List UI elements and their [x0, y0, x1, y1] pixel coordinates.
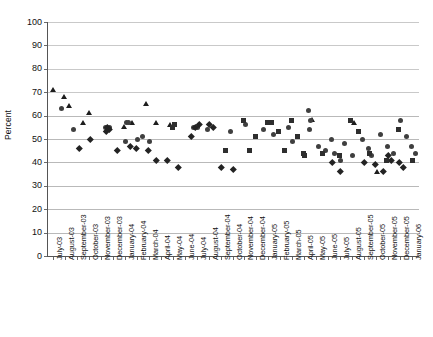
data-point-diamond — [385, 152, 391, 158]
x-tick-label: October-04 — [236, 224, 243, 260]
x-tick-mark — [221, 257, 222, 260]
data-point-circle — [391, 151, 396, 156]
data-point-square — [223, 148, 228, 153]
x-tick-mark — [280, 257, 281, 260]
x-tick-label: September-04 — [224, 214, 231, 260]
x-tick-label: June-05 — [331, 234, 338, 260]
x-tick-mark — [137, 257, 138, 260]
y-tick-label: 80 — [18, 64, 42, 73]
data-point-triangle — [61, 94, 67, 99]
x-tick-label: January-04 — [128, 224, 135, 260]
data-point-circle — [191, 125, 196, 130]
x-tick-label: July-05 — [343, 237, 350, 260]
gridline — [47, 92, 419, 93]
data-point-circle — [413, 151, 418, 156]
data-point-circle — [71, 127, 76, 132]
gridline — [47, 209, 419, 210]
data-point-circle — [323, 148, 328, 153]
x-tick-label: August-03 — [68, 227, 75, 260]
x-tick-mark — [185, 257, 186, 260]
x-tick-label: February-05 — [283, 221, 290, 260]
x-tick-mark — [233, 257, 234, 260]
data-point-circle — [205, 127, 210, 132]
gridline — [47, 22, 419, 23]
data-point-diamond — [106, 126, 112, 132]
data-point-square — [241, 118, 246, 123]
x-tick-mark — [412, 257, 413, 260]
x-tick-mark — [89, 257, 90, 260]
x-tick-label: August-05 — [355, 227, 362, 260]
data-point-circle — [385, 144, 390, 149]
data-point-diamond — [337, 168, 343, 174]
gridline — [47, 162, 419, 163]
data-point-square — [170, 125, 175, 130]
data-point-diamond — [103, 129, 109, 135]
data-point-diamond — [193, 124, 199, 130]
x-tick-label: December-05 — [403, 216, 410, 260]
x-tick-label: January-05 — [271, 224, 278, 260]
data-point-circle — [306, 108, 311, 113]
data-point-circle — [261, 127, 266, 132]
data-point-diamond — [114, 147, 120, 153]
y-tick-label: 50 — [18, 135, 42, 144]
x-tick-mark — [113, 257, 114, 260]
data-point-circle — [307, 127, 312, 132]
x-tick-label: May-05 — [319, 236, 326, 260]
x-tick-mark — [328, 257, 329, 260]
clipped-title-remnant — [112, 0, 362, 4]
data-point-square — [367, 151, 372, 156]
x-tick-label: March-05 — [295, 230, 302, 260]
data-point-diamond — [218, 164, 224, 170]
data-point-circle — [409, 144, 414, 149]
gridline — [47, 69, 419, 70]
x-tick-label: April-04 — [164, 235, 171, 260]
data-point-circle — [271, 132, 276, 137]
data-point-triangle — [129, 120, 135, 125]
x-tick-mark — [53, 257, 54, 260]
data-point-circle — [103, 125, 108, 130]
x-tick-mark — [388, 257, 389, 260]
data-point-diamond — [196, 122, 202, 128]
x-tick-label: November-03 — [104, 216, 111, 260]
x-tick-label: April-05 — [307, 235, 314, 260]
data-point-triangle — [86, 110, 92, 115]
x-tick-mark — [125, 257, 126, 260]
x-tick-mark — [340, 257, 341, 260]
x-tick-label: March-04 — [152, 230, 159, 260]
x-tick-label: October-03 — [92, 224, 99, 260]
x-tick-mark — [364, 257, 365, 260]
x-tick-mark — [376, 257, 377, 260]
x-tick-label: November-05 — [391, 216, 398, 260]
data-point-circle — [369, 153, 374, 158]
data-point-triangle — [167, 122, 173, 127]
scatter-chart: Percent 0102030405060708090100 July-03Au… — [0, 0, 433, 337]
y-tick-label: 30 — [18, 181, 42, 190]
data-point-circle — [342, 141, 347, 146]
x-tick-label: November-04 — [247, 216, 254, 260]
data-point-square — [269, 120, 274, 125]
data-point-circle — [316, 144, 321, 149]
data-point-circle — [350, 153, 355, 158]
y-tick-label: 60 — [18, 111, 42, 120]
data-point-square — [348, 118, 353, 123]
x-tick-mark — [256, 257, 257, 260]
x-tick-label: September-05 — [367, 214, 374, 260]
data-point-square — [276, 129, 281, 134]
y-tick-label: 10 — [18, 228, 42, 237]
data-point-circle — [59, 106, 64, 111]
x-tick-label: June-04 — [188, 234, 195, 260]
data-point-diamond — [104, 124, 110, 130]
data-point-triangle — [374, 169, 380, 174]
data-point-diamond — [133, 145, 139, 151]
x-tick-mark — [101, 257, 102, 260]
data-point-square — [265, 120, 270, 125]
data-point-diamond — [380, 168, 386, 174]
data-point-triangle — [309, 117, 315, 122]
data-point-circle — [228, 129, 233, 134]
data-point-square — [302, 153, 307, 158]
data-point-square — [301, 151, 306, 156]
data-point-square — [337, 153, 342, 158]
data-point-square — [396, 127, 401, 132]
x-tick-mark — [400, 257, 401, 260]
data-point-square — [247, 148, 252, 153]
